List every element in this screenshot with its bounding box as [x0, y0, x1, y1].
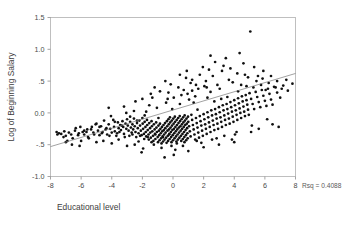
data-point [126, 124, 129, 127]
data-point [188, 125, 191, 128]
data-point [90, 128, 93, 131]
data-point [218, 143, 221, 146]
data-point [240, 84, 243, 87]
data-point [139, 134, 142, 137]
data-point [154, 138, 157, 141]
data-point [117, 121, 120, 124]
data-point [236, 119, 239, 122]
data-point [140, 151, 143, 154]
data-point [150, 141, 153, 144]
data-point [86, 128, 89, 131]
data-point [255, 80, 258, 83]
data-point [206, 96, 209, 99]
data-point [224, 124, 227, 127]
data-point [141, 98, 144, 101]
data-point [94, 123, 97, 126]
data-point [223, 134, 226, 137]
data-point [169, 83, 172, 86]
data-point [226, 108, 229, 111]
data-point [131, 123, 134, 126]
data-point [148, 104, 151, 107]
data-point [175, 142, 178, 145]
scatter-chart: -1.0-.50.0.51.01.5 -8-6-4-202468 Educati… [0, 0, 361, 231]
data-point [277, 126, 280, 129]
data-point [233, 99, 236, 102]
data-point [227, 112, 230, 115]
data-point [192, 128, 195, 131]
data-point [219, 116, 222, 119]
data-point [236, 72, 239, 75]
data-point [189, 82, 192, 85]
y-tick-label: 1.5 [35, 13, 45, 22]
data-point [205, 127, 208, 130]
data-point [166, 98, 169, 101]
data-point [242, 105, 245, 108]
data-point [117, 127, 120, 130]
data-point [102, 140, 105, 143]
data-point [70, 133, 73, 136]
data-point [74, 129, 77, 132]
data-point [211, 138, 214, 141]
data-point [98, 134, 101, 137]
data-point [244, 115, 247, 118]
data-point [238, 52, 241, 55]
data-point [129, 115, 132, 118]
data-point [134, 131, 137, 134]
data-point [188, 130, 191, 133]
data-point [133, 110, 136, 113]
data-point [265, 105, 268, 108]
data-point [235, 131, 238, 134]
data-point [130, 126, 133, 129]
data-point [276, 80, 279, 83]
data-point [178, 115, 181, 118]
data-point [218, 87, 221, 90]
data-point [216, 122, 219, 125]
data-point [116, 132, 119, 135]
data-point [133, 143, 136, 146]
data-point [164, 80, 167, 83]
data-point [202, 134, 205, 137]
data-point [155, 121, 158, 124]
data-point [211, 119, 214, 122]
data-point [113, 130, 116, 133]
data-point [200, 141, 203, 144]
data-point [204, 123, 207, 126]
y-tick-label: 0.0 [35, 109, 45, 118]
data-point [200, 124, 203, 127]
data-point [274, 86, 277, 89]
data-point [137, 132, 140, 135]
data-point [136, 127, 139, 130]
data-point [149, 136, 152, 139]
data-point [191, 78, 194, 81]
data-point [202, 66, 205, 69]
data-point [137, 140, 140, 143]
data-point [126, 145, 129, 148]
data-point [243, 110, 246, 113]
data-point [167, 91, 170, 94]
data-point [192, 124, 195, 127]
data-point [149, 92, 152, 95]
data-point [210, 109, 213, 112]
data-point [80, 140, 83, 143]
data-point [197, 131, 200, 134]
data-point [142, 127, 145, 130]
data-point [215, 137, 218, 140]
data-point [237, 97, 240, 100]
data-point [271, 103, 274, 106]
data-point [267, 87, 270, 90]
x-tick-label: 0 [171, 181, 175, 190]
data-point [172, 96, 175, 99]
data-point [196, 108, 199, 111]
data-point [209, 131, 212, 134]
data-point [169, 116, 172, 119]
data-point [249, 30, 252, 33]
data-point [126, 118, 129, 121]
data-point [228, 117, 231, 120]
data-point [98, 126, 101, 129]
data-point [207, 116, 210, 119]
data-point [187, 150, 190, 153]
data-point [234, 109, 237, 112]
data-point [141, 122, 144, 125]
data-point [230, 106, 233, 109]
data-point [144, 131, 147, 134]
